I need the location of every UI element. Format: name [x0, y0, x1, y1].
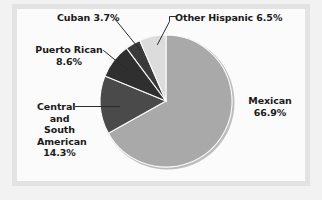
pie-chart-screenshot: Mexican 66.9%Central and South American … [0, 0, 322, 200]
slice-label-central-line2: and [37, 113, 82, 125]
slice-label-cuban: Cuban 3.7% [57, 12, 119, 24]
pie-slices-group: Mexican 66.9%Central and South American … [100, 35, 232, 167]
slice-label-central-line4: American [37, 136, 82, 148]
slice-label-central-south-american: Central and South American 14.3% [37, 101, 82, 159]
slice-label-mexican-value: 66.9% [254, 107, 286, 118]
slice-label-puerto-rican: Puerto Rican 8.6% [33, 44, 105, 67]
slice-label-puerto-rican-name: Puerto Rican [35, 44, 102, 55]
slice-label-central-line1: Central [37, 101, 82, 113]
slice-label-central-line3: South [37, 124, 82, 136]
slice-label-central-value: 14.3% [37, 147, 82, 159]
slice-label-puerto-rican-value: 8.6% [56, 56, 82, 67]
slice-label-mexican-name: Mexican [248, 95, 291, 106]
slice-label-other-hispanic: Other Hispanic 6.5% [175, 12, 282, 24]
slice-label-mexican: Mexican 66.9% [239, 95, 301, 118]
